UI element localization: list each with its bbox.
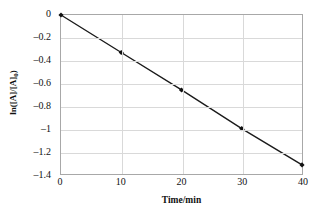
x-axis-tick-labels: 010203040 [60,177,303,191]
y-axis-tick-labels: 0–0.2–0.4–0.6–0.8–1–1.2–1.4 [14,14,56,175]
gridline-vertical [183,15,184,174]
y-tick-label: –1.2 [34,147,52,157]
gridline-horizontal [61,84,302,85]
y-tick-label: –1 [41,124,51,134]
x-axis-title: Time/min [60,195,303,205]
x-tick-label: 20 [177,177,187,187]
gridline-horizontal [61,107,302,108]
y-tick-label: –0.6 [34,78,52,88]
y-tick-label: –0.4 [34,55,52,65]
gridline-horizontal [61,38,302,39]
x-tick-label: 30 [237,177,247,187]
y-tick-label: –0.8 [34,101,52,111]
y-tick-label: –1.4 [34,170,52,180]
gridline-horizontal [61,153,302,154]
y-tick-label: 0 [46,9,51,19]
plot-area [60,14,303,175]
y-tick-label: –0.2 [34,32,52,42]
gridline-vertical [243,15,244,174]
x-tick-label: 40 [298,177,308,187]
x-tick-label: 0 [58,177,63,187]
x-tick-label: 10 [116,177,126,187]
gridline-horizontal [61,130,302,131]
kinetics-line-chart: ln([A]/[A]0) 0–0.2–0.4–0.6–0.8–1–1.2–1.4… [0,0,326,217]
gridline-vertical [122,15,123,174]
gridline-horizontal [61,61,302,62]
